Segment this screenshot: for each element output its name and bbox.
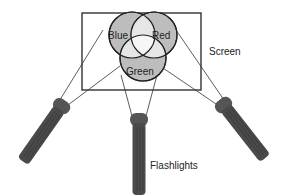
blue-label: Blue [108,30,128,41]
flashlights-label: Flashlights [150,160,198,171]
screen-label: Screen [209,46,241,57]
flashlight-right [212,94,272,163]
red-label: Red [152,30,170,41]
rgb-light-mixing-diagram [0,0,288,195]
green-label: Green [126,66,154,77]
flashlight-center [130,113,148,195]
flashlight-left [15,96,72,167]
